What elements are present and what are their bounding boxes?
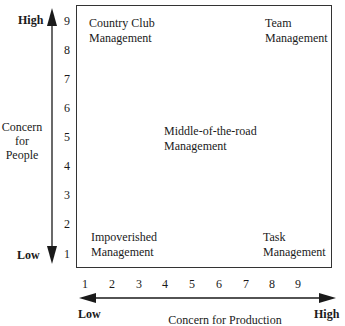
x-tick: 5 bbox=[185, 278, 199, 290]
team-management-label: Team Management bbox=[265, 16, 328, 46]
arrow-down-head bbox=[47, 246, 57, 264]
arrow-right-head bbox=[319, 293, 336, 303]
y-tick: 8 bbox=[60, 44, 74, 56]
label-line: Management bbox=[91, 245, 157, 260]
x-tick: 1 bbox=[78, 278, 92, 290]
x-tick: 6 bbox=[212, 278, 226, 290]
label-line: Middle-of-the-road bbox=[164, 124, 257, 139]
task-management-label: Task Management bbox=[263, 230, 326, 260]
y-axis-arrow bbox=[47, 8, 57, 264]
y-axis-title: Concern for People bbox=[0, 120, 44, 162]
y-axis-title-line: Concern bbox=[0, 120, 44, 134]
y-tick: 2 bbox=[60, 218, 74, 230]
x-tick: 9 bbox=[291, 278, 305, 290]
label-line: Task bbox=[263, 230, 326, 245]
label-line: Impoverished bbox=[91, 230, 157, 245]
impoverished-management-label: Impoverished Management bbox=[91, 230, 157, 260]
x-axis-low-label: Low bbox=[78, 307, 101, 321]
y-axis-title-line: for bbox=[0, 134, 44, 148]
x-axis-high-label: High bbox=[314, 307, 339, 321]
y-tick: 5 bbox=[60, 131, 74, 143]
y-axis-title-line: People bbox=[0, 148, 44, 162]
label-line: Management bbox=[263, 245, 326, 260]
y-tick: 6 bbox=[60, 102, 74, 114]
arrow-left-head bbox=[79, 293, 96, 303]
y-axis-low-label: Low bbox=[17, 248, 40, 262]
x-tick: 8 bbox=[265, 278, 279, 290]
label-line: Management bbox=[164, 139, 257, 154]
label-line: Management bbox=[265, 31, 328, 46]
arrow-up-head bbox=[47, 8, 57, 26]
label-line: Country Club bbox=[89, 16, 155, 31]
y-tick: 3 bbox=[60, 189, 74, 201]
country-club-management-label: Country Club Management bbox=[89, 16, 155, 46]
label-line: Management bbox=[89, 31, 155, 46]
x-tick: 4 bbox=[158, 278, 172, 290]
label-line: Team bbox=[265, 16, 328, 31]
y-axis-high-label: High bbox=[18, 13, 43, 27]
y-tick: 9 bbox=[60, 15, 74, 27]
x-tick: 3 bbox=[132, 278, 146, 290]
y-tick: 1 bbox=[60, 248, 74, 260]
y-tick: 7 bbox=[60, 73, 74, 85]
x-axis-title: Concern for Production bbox=[150, 313, 300, 326]
x-axis-arrow bbox=[79, 293, 336, 303]
x-tick: 7 bbox=[239, 278, 253, 290]
middle-of-the-road-management-label: Middle-of-the-road Management bbox=[164, 124, 257, 154]
y-tick: 4 bbox=[60, 160, 74, 172]
x-tick: 2 bbox=[105, 278, 119, 290]
